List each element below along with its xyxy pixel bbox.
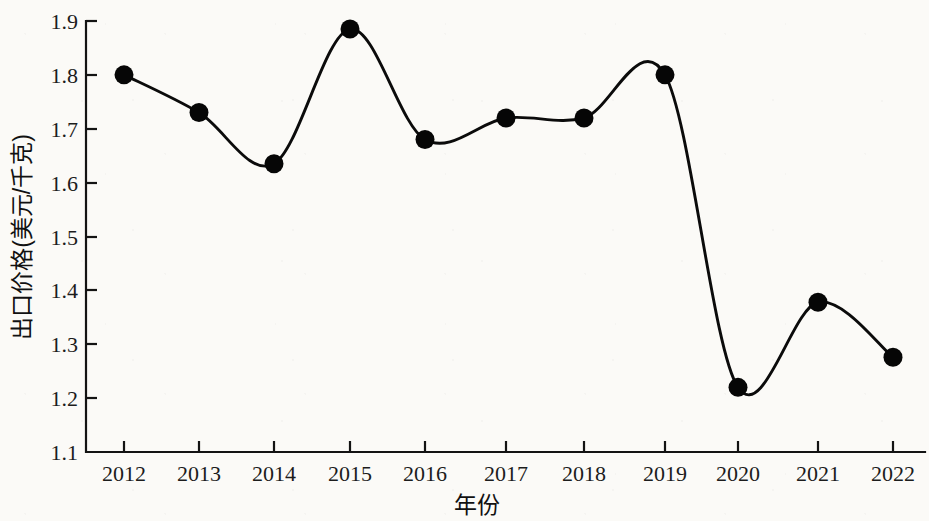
y-tick-label: 1.3 (51, 332, 79, 357)
x-tick-label: 2013 (177, 461, 221, 486)
data-point (416, 130, 435, 149)
y-tick-label: 1.8 (51, 63, 79, 88)
x-tick-label: 2020 (716, 461, 760, 486)
y-tick-label: 1.2 (51, 386, 79, 411)
chart-canvas: 1.9 1.8 1.7 1.6 1.5 1.4 1.3 1.2 1.1 (0, 0, 929, 521)
series-line (124, 29, 893, 395)
data-point (115, 65, 134, 84)
y-tick-label: 1.7 (51, 117, 79, 142)
y-tick-label: 1.9 (51, 9, 79, 34)
x-tick-label: 2019 (643, 461, 687, 486)
data-point (809, 293, 828, 312)
y-axis-ticks (86, 21, 97, 398)
data-point (729, 378, 748, 397)
data-series (115, 20, 903, 397)
line-chart: 1.9 1.8 1.7 1.6 1.5 1.4 1.3 1.2 1.1 (0, 0, 929, 521)
series-markers (115, 20, 903, 397)
x-tick-label: 2015 (328, 461, 372, 486)
x-axis-title: 年份 (454, 492, 500, 518)
y-tick-label: 1.4 (51, 278, 79, 303)
x-tick-label: 2014 (252, 461, 296, 486)
data-point (575, 108, 594, 127)
y-axis-title: 出口价格(美元/千克) (9, 134, 35, 340)
data-point (341, 20, 360, 39)
x-tick-label: 2018 (562, 461, 606, 486)
x-tick-label: 2022 (871, 461, 915, 486)
x-tick-label: 2012 (102, 461, 146, 486)
data-point (190, 103, 209, 122)
y-axis-tick-labels: 1.9 1.8 1.7 1.6 1.5 1.4 1.3 1.2 1.1 (51, 9, 79, 465)
y-tick-label: 1.6 (51, 171, 79, 196)
data-point (265, 154, 284, 173)
axis-lines (86, 21, 925, 452)
x-tick-label: 2021 (796, 461, 840, 486)
y-tick-label: 1.5 (51, 225, 79, 250)
x-axis-ticks (124, 441, 893, 452)
data-point (497, 108, 516, 127)
data-point (656, 65, 675, 84)
x-tick-label: 2017 (484, 461, 528, 486)
x-tick-label: 2016 (403, 461, 447, 486)
y-tick-label: 1.1 (51, 440, 79, 465)
x-axis-tick-labels: 2012 2013 2014 2015 2016 2017 2018 2019 … (102, 461, 915, 486)
data-point (884, 348, 903, 367)
